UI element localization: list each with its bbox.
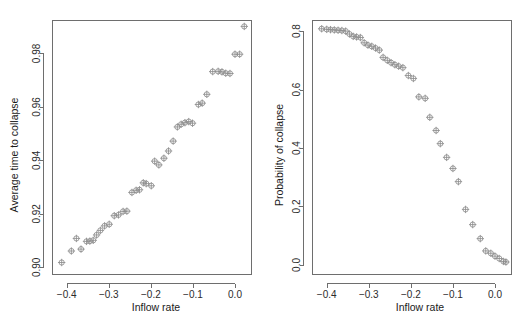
- figure-container: −0.4−0.3−0.2−0.10.00.900.920.940.960.98 …: [0, 0, 525, 331]
- data-point: [189, 120, 196, 127]
- data-point: [203, 91, 210, 98]
- data-point: [58, 259, 65, 266]
- y-axis-tick-label: 0.94: [32, 150, 43, 170]
- data-point: [443, 154, 450, 161]
- data-point: [181, 119, 188, 126]
- data-point-group: [58, 23, 248, 266]
- x-axis-tick-label: −0.4: [57, 289, 77, 300]
- y-axis-title: Average time to collapse: [8, 97, 20, 212]
- data-point: [469, 221, 476, 228]
- y-axis-tick-label: 0.2: [292, 199, 303, 213]
- data-point: [449, 165, 456, 172]
- scatter-plot-left: −0.4−0.3−0.2−0.10.00.900.920.940.960.98 …: [0, 0, 262, 331]
- data-point: [198, 99, 205, 106]
- y-axis-tick-label: 0.0: [292, 258, 303, 272]
- data-point-group: [318, 25, 510, 266]
- data-point: [455, 178, 462, 185]
- data-point: [462, 206, 469, 213]
- y-axis-tick-label: 0.6: [292, 82, 303, 96]
- scatter-plot-right: −0.4−0.3−0.2−0.10.00.00.20.40.60.8 Inflo…: [262, 0, 524, 331]
- x-axis-tick-label: −0.2: [401, 289, 421, 300]
- data-point: [477, 235, 484, 242]
- x-axis-tick-label: −0.3: [99, 289, 119, 300]
- y-axis-tick-label: 0.8: [292, 24, 303, 38]
- x-axis-title: Inflow rate: [396, 301, 445, 313]
- y-axis-tick-label: 0.4: [292, 141, 303, 155]
- plot-frame: [53, 21, 252, 275]
- y-axis-tick-label: 0.92: [32, 204, 43, 224]
- x-axis-tick-label: −0.1: [183, 289, 203, 300]
- data-point: [399, 64, 406, 71]
- data-point: [426, 114, 433, 121]
- x-axis-tick-label: 0.0: [488, 289, 502, 300]
- data-point: [421, 95, 428, 102]
- data-point: [241, 23, 248, 30]
- data-point: [68, 247, 75, 254]
- data-point: [236, 51, 243, 58]
- data-point: [165, 147, 172, 154]
- data-point: [432, 127, 439, 134]
- data-point: [368, 43, 375, 50]
- x-axis-tick-label: −0.4: [317, 289, 337, 300]
- data-point: [437, 140, 444, 147]
- x-axis-tick-label: −0.1: [443, 289, 463, 300]
- y-axis-tick-label: 0.90: [32, 257, 43, 277]
- data-point: [195, 101, 202, 108]
- chart-panel-left: −0.4−0.3−0.2−0.10.00.900.920.940.960.98 …: [0, 0, 262, 331]
- data-point: [155, 161, 162, 168]
- data-point: [391, 61, 398, 68]
- chart-panel-right: −0.4−0.3−0.2−0.10.00.00.20.40.60.8 Inflo…: [262, 0, 524, 331]
- data-point: [77, 245, 84, 252]
- data-point: [169, 137, 176, 144]
- x-axis-tick-label: −0.2: [141, 289, 161, 300]
- x-axis-tick-label: 0.0: [228, 289, 242, 300]
- x-axis-title: Inflow rate: [132, 301, 181, 313]
- data-point: [160, 155, 167, 162]
- data-point: [376, 46, 383, 53]
- data-point: [73, 235, 80, 242]
- data-point: [185, 118, 192, 125]
- data-point: [151, 157, 158, 164]
- y-axis-title: Probability of collapse: [273, 104, 285, 206]
- y-axis-tick-label: 0.98: [32, 43, 43, 63]
- x-axis-tick-label: −0.3: [359, 289, 379, 300]
- data-point: [415, 93, 422, 100]
- figure-caption: [0, 324, 525, 331]
- y-axis-tick-label: 0.96: [32, 97, 43, 117]
